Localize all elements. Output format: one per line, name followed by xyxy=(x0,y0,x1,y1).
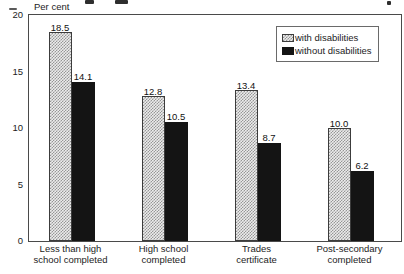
bar-value-label: 13.4 xyxy=(237,80,256,91)
bar-with-disabilities: 12.8 xyxy=(142,96,165,241)
bar-value-label: 6.2 xyxy=(355,160,368,171)
bar-without-disabilities: 10.5 xyxy=(165,122,188,241)
bar-value-label: 8.7 xyxy=(262,132,275,143)
bar-value-label: 10.5 xyxy=(167,111,186,122)
bar-group: 18.514.1 xyxy=(49,32,95,241)
y-axis-tick-label: 20 xyxy=(2,9,23,20)
y-axis-tick-label: 15 xyxy=(2,66,23,77)
legend: with disabilities without disabilities xyxy=(276,26,379,62)
bar-value-label: 12.8 xyxy=(144,86,163,97)
y-axis-tick-label: 10 xyxy=(2,122,23,133)
legend-label: with disabilities xyxy=(295,31,358,44)
bar-with-disabilities: 18.5 xyxy=(49,32,72,241)
bar-with-disabilities: 13.4 xyxy=(235,90,258,241)
legend-item-without-disabilities: without disabilities xyxy=(282,44,372,57)
x-axis-category-label: Post-secondary completed xyxy=(295,243,404,265)
bar-chart: Per cent 20151050 18.514.112.810.513.48.… xyxy=(0,0,404,274)
y-axis-tick-label: 5 xyxy=(2,179,23,190)
bar-without-disabilities: 8.7 xyxy=(258,143,281,241)
bar-value-label: 10.0 xyxy=(330,118,349,129)
bar-without-disabilities: 14.1 xyxy=(72,82,95,241)
bar-group: 13.48.7 xyxy=(235,90,281,241)
cropped-title-fragment xyxy=(85,0,94,4)
bar-group: 12.810.5 xyxy=(142,96,188,241)
bar-without-disabilities: 6.2 xyxy=(351,171,374,241)
bar-group: 10.06.2 xyxy=(328,128,374,241)
solid-swatch-icon xyxy=(282,47,294,55)
legend-item-with-disabilities: with disabilities xyxy=(282,31,372,44)
bar-value-label: 14.1 xyxy=(74,71,93,82)
cropped-title-fragment xyxy=(115,0,128,4)
cropped-title-fragment xyxy=(387,1,391,5)
plot-area: 18.514.112.810.513.48.710.06.2 with disa… xyxy=(28,14,402,242)
y-axis-title: Per cent xyxy=(34,1,69,12)
legend-label: without disabilities xyxy=(295,44,372,57)
bar-value-label: 18.5 xyxy=(51,22,70,33)
bar-with-disabilities: 10.0 xyxy=(328,128,351,241)
pattern-swatch-icon xyxy=(282,34,294,42)
